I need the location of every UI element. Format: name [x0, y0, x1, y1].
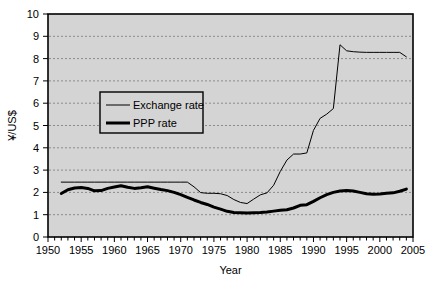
legend-label-0: Exchange rate [133, 99, 204, 111]
x-axis-tick-label: 1955 [69, 244, 93, 256]
x-axis-tick-label: 2000 [368, 244, 392, 256]
x-axis-tick-label: 1985 [268, 244, 292, 256]
x-axis-tick-label: 1960 [102, 244, 126, 256]
legend-label-1: PPP rate [133, 117, 177, 129]
line-chart: 1950195519601965197019751980198519901995… [0, 0, 435, 296]
x-axis-tick-label: 1995 [334, 244, 358, 256]
x-axis-tick-label: 1980 [235, 244, 259, 256]
x-axis-tick-label: 1975 [202, 244, 226, 256]
y-axis-tick-label: 8 [33, 53, 39, 65]
x-axis-tick-label: 1990 [301, 244, 325, 256]
x-axis-tick-label: 1965 [135, 244, 159, 256]
x-axis-tick-label: 1970 [168, 244, 192, 256]
y-axis-tick-label: 5 [33, 120, 39, 132]
y-axis-tick-label: 0 [33, 231, 39, 243]
x-axis-title: Year [219, 264, 242, 276]
y-axis-tick-label: 7 [33, 75, 39, 87]
x-axis-tick-label: 1950 [36, 244, 60, 256]
y-axis-tick-label: 3 [33, 164, 39, 176]
y-axis-tick-label: 1 [33, 209, 39, 221]
y-axis-tick-label: 2 [33, 186, 39, 198]
chart-container: 1950195519601965197019751980198519901995… [0, 0, 435, 296]
y-axis-tick-label: 4 [33, 142, 39, 154]
y-axis-tick-label: 10 [27, 8, 39, 20]
x-axis-tick-label: 2005 [401, 244, 425, 256]
y-axis-title: ¥/US$ [6, 110, 18, 142]
y-axis-tick-label: 6 [33, 97, 39, 109]
y-axis-tick-label: 9 [33, 30, 39, 42]
